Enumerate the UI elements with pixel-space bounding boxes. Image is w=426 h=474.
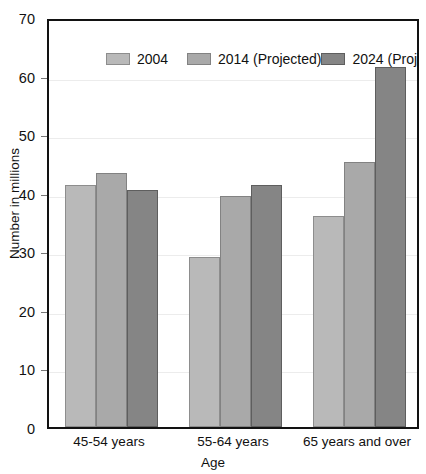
bar	[189, 257, 220, 427]
x-tick-label: 45-54 years	[47, 434, 171, 449]
legend-label: 2014 (Projected)	[218, 52, 322, 66]
bar	[127, 190, 158, 427]
bar	[96, 173, 127, 427]
x-tick-label: 65 years and over	[295, 434, 419, 449]
legend-item[interactable]: 2004	[106, 52, 187, 66]
bar	[220, 196, 251, 427]
y-tick-label: 70	[1, 12, 35, 27]
legend-swatch-icon	[106, 53, 130, 65]
y-tick-label: 40	[1, 188, 35, 203]
x-tick-label: 55-64 years	[171, 434, 295, 449]
legend-label: 2024 (Projected)	[352, 52, 419, 66]
y-tick-label: 0	[1, 422, 35, 437]
bar	[313, 216, 344, 427]
legend-swatch-icon	[187, 53, 211, 65]
plot-area: 20042014 (Projected)2024 (Projected)	[47, 19, 419, 429]
bar-chart: Number in millions 010203040506070 20042…	[0, 0, 426, 474]
gridline	[49, 80, 417, 81]
y-tick-label: 50	[1, 129, 35, 144]
bar	[251, 185, 282, 427]
legend-swatch-icon	[321, 53, 345, 65]
y-tick-label: 60	[1, 71, 35, 86]
legend-label: 2004	[137, 52, 168, 66]
y-tick-label: 10	[1, 363, 35, 378]
legend-item[interactable]: 2024 (Projected)	[321, 52, 419, 66]
x-axis-label: Age	[0, 455, 426, 470]
legend: 20042014 (Projected)2024 (Projected)	[106, 46, 419, 71]
gridline	[49, 138, 417, 139]
bar	[375, 67, 406, 427]
legend-item[interactable]: 2014 (Projected)	[187, 52, 322, 66]
bar	[344, 162, 375, 427]
y-tick-label: 20	[1, 305, 35, 320]
y-tick-label: 30	[1, 246, 35, 261]
bar	[65, 185, 96, 427]
